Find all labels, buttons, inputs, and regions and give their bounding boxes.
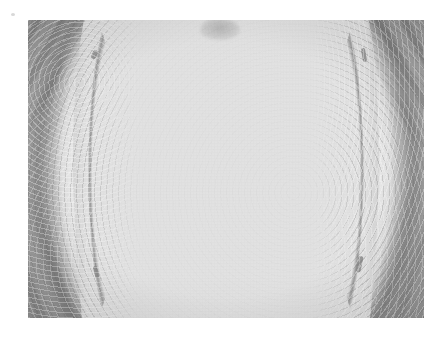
- figure-caption: [28, 322, 424, 340]
- page-canvas: [0, 0, 440, 346]
- paper-speck: [11, 13, 15, 16]
- photograph: [28, 20, 424, 318]
- vignette: [28, 20, 424, 318]
